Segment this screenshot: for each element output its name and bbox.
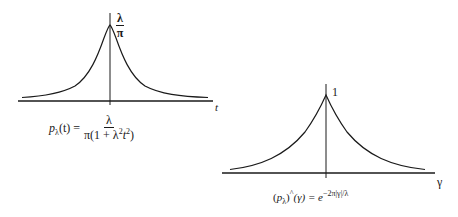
formula-lhs: pλ(t) = [49, 122, 80, 134]
right-peak-label: 1 [332, 86, 338, 98]
diagram-canvas [0, 0, 458, 217]
peak-label-numerator: λ [116, 12, 124, 26]
cauchy-density-formula: pλ(t) = λ π(1 + λ2t2) [49, 114, 134, 141]
right-plot [222, 84, 435, 178]
right-axis-label: γ [437, 176, 442, 188]
left-peak-label: λ π [116, 12, 124, 39]
den-part-1: π(1 + λ [84, 128, 119, 142]
den-part-3: ) [130, 128, 134, 142]
fourier-transform-formula: (pλ)^(γ) = e−2π|γ|/λ [273, 192, 348, 203]
left-axis-label: t [215, 102, 218, 113]
peak-label-denominator: π [117, 26, 124, 39]
ft-argument: (γ) = e [294, 191, 323, 203]
formula-argument: (t) = [59, 121, 80, 135]
formula-fraction: λ π(1 + λ2t2) [84, 114, 134, 141]
exponential-transform-curve [230, 95, 425, 170]
formula-numerator: λ [104, 114, 114, 128]
cauchy-density-curve [22, 25, 208, 98]
ft-exponent: −2π|γ|/λ [323, 189, 348, 198]
formula-denominator: π(1 + λ2t2) [84, 128, 134, 141]
